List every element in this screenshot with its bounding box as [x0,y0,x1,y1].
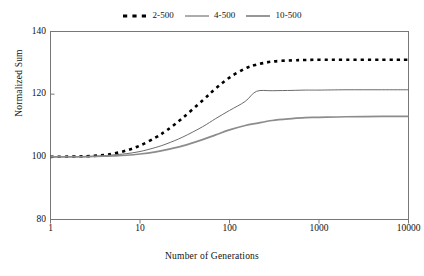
x-tick-label: 10000 [397,224,421,234]
x-tick-label: 1 [48,224,53,234]
chart-figure: 2-500 4-500 10-500 80100120140 110100100… [0,0,424,276]
y-axis-title: Normalized Sum [14,23,24,143]
x-axis-title: Number of Generations [0,251,424,261]
x-tick-label: 100 [222,224,236,234]
x-tick-label: 1000 [310,224,329,234]
x-tick-label: 10 [135,224,145,234]
x-axis-tick-labels: 110100100010000 [0,0,424,276]
